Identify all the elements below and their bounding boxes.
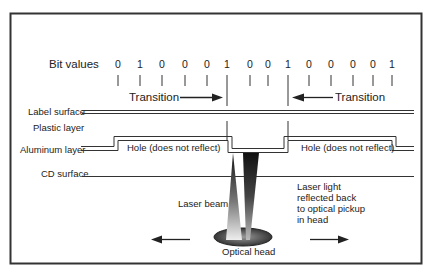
motion-arrow-left-icon	[151, 236, 190, 244]
bit-value: 0	[370, 58, 376, 70]
bit-value: 0	[350, 58, 356, 70]
reflected-label-line4: in head	[297, 214, 328, 225]
transition-label-left: Transition	[129, 91, 179, 103]
bit-value: 1	[389, 58, 395, 70]
transition-label-right: Transition	[335, 91, 385, 103]
bit-value: 0	[115, 58, 121, 70]
aluminum-layer-label: Aluminum layer	[20, 144, 85, 155]
hole-label-left: Hole (does not reflect)	[127, 142, 220, 153]
bit-value: 0	[204, 58, 210, 70]
bit-value: 0	[265, 58, 271, 70]
cd-reading-diagram: Bit values 0 1 0 0 0 1 0 0 1 0 0 0 0 1	[0, 0, 431, 270]
reflected-beam-icon	[243, 153, 259, 240]
pit-transition-ticks	[227, 121, 288, 140]
bit-value: 1	[285, 58, 291, 70]
bit-value: 0	[328, 58, 334, 70]
arrow-left-icon	[292, 94, 333, 102]
bit-values-label: Bit values	[49, 58, 99, 70]
optical-head-label: Optical head	[222, 246, 275, 257]
arrow-right-icon	[180, 94, 223, 102]
motion-arrow-right-icon	[310, 236, 349, 244]
label-surface-label: Label surface	[28, 106, 85, 117]
bit-value: 0	[182, 58, 188, 70]
laser-beam-label: Laser beam	[178, 198, 228, 209]
bit-value: 0	[159, 58, 165, 70]
bit-value: 0	[247, 58, 253, 70]
reflected-label-line2: reflected back	[297, 192, 356, 203]
diagram-frame	[11, 14, 422, 264]
cd-surface-label: CD surface	[41, 168, 89, 179]
bit-value: 0	[306, 58, 312, 70]
reflected-label-line1: Laser light	[297, 181, 341, 192]
laser-beam-icon	[226, 153, 242, 240]
bit-value: 1	[224, 58, 230, 70]
bit-value: 1	[137, 58, 143, 70]
optical-head-icon	[214, 228, 272, 246]
label-surface-line	[82, 111, 414, 114]
hole-label-right: Hole (does not reflect)	[301, 142, 394, 153]
reflected-label-line3: to optical pickup	[297, 203, 365, 214]
plastic-layer-label: Plastic layer	[33, 122, 84, 133]
